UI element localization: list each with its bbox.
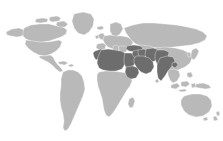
- world-map-figure: [0, 0, 223, 141]
- island-sulawesi: [191, 83, 196, 88]
- island-arctic-canada-1: [35, 18, 48, 23]
- world-map-canvas: [0, 0, 223, 141]
- region-maghreb: [97, 49, 126, 71]
